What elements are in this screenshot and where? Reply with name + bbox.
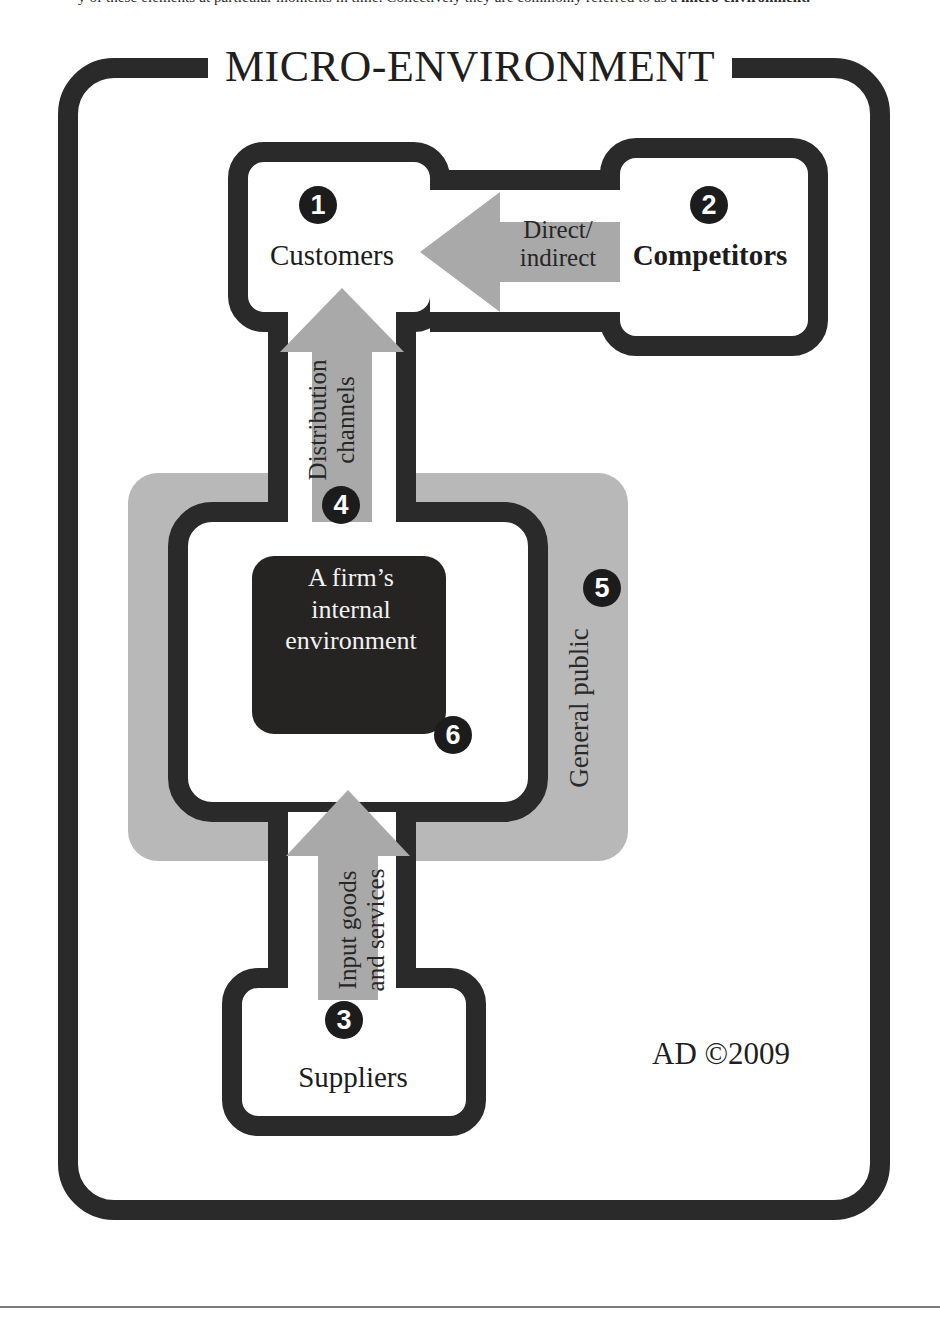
arrow-label-distribution-channels: Distribution channels [304, 330, 364, 510]
node-label-customers: Customers [232, 240, 432, 270]
node-label-firm-internal: A firm’s internal environment [258, 562, 444, 657]
figure-canvas: y of these elements at particular moment… [0, 0, 940, 1323]
badge-number-2: 2 [690, 186, 728, 224]
badge-number-4: 4 [322, 486, 360, 524]
badge-number-5: 5 [583, 569, 621, 607]
micro-environment-diagram [0, 0, 940, 1323]
page-bottom-rule [0, 1306, 940, 1308]
diagram-title: MICRO-ENVIRONMENT [210, 44, 730, 90]
arrow-label-input-goods: Input goods and services [334, 830, 394, 1030]
node-label-competitors: Competitors [604, 240, 816, 270]
badge-number-1: 1 [299, 186, 337, 224]
badge-number-6: 6 [434, 716, 472, 754]
badge-number-3: 3 [325, 1001, 363, 1039]
node-label-suppliers: Suppliers [238, 1062, 468, 1092]
arrow-label-direct-indirect: Direct/ indirect [492, 216, 624, 272]
credit-text: AD ©2009 [652, 1038, 852, 1071]
node-label-general-public: General public [564, 608, 624, 808]
